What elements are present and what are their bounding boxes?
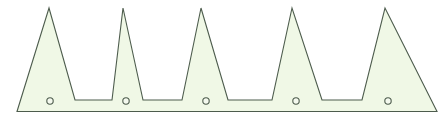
mounting-hole-2	[123, 98, 129, 104]
mounting-hole-4	[293, 98, 299, 104]
mounting-hole-3	[203, 98, 209, 104]
mounting-hole-5	[385, 98, 391, 104]
mounting-hole-1	[47, 98, 53, 104]
figure-canvas	[0, 0, 447, 120]
sawtooth-profile-diagram	[0, 0, 447, 120]
